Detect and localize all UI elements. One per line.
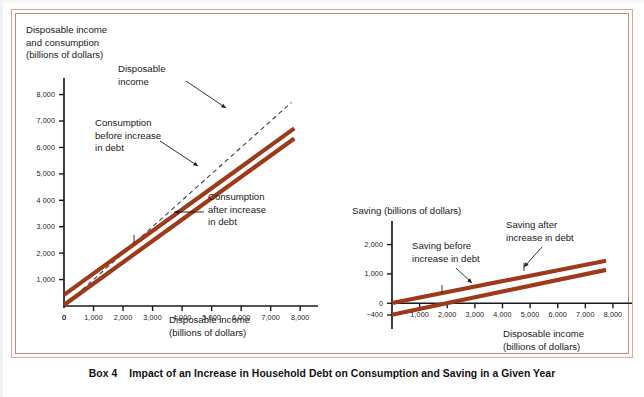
box-number: Box 4 xyxy=(89,368,118,379)
saving-chart: Saving (billions of dollars) Disposable … xyxy=(352,205,637,355)
series-line xyxy=(392,261,606,303)
annotation-consumption-before: Consumption before increase in debt xyxy=(95,117,161,155)
figure-caption: Box 4Impact of an Increase in Household … xyxy=(0,368,644,379)
leader-disposable-income xyxy=(186,81,226,108)
y-tick-label-negative: −400 xyxy=(352,310,383,319)
leader-consumption-before xyxy=(160,141,198,166)
y-tick-label: 0 xyxy=(352,299,383,308)
annotation-disposable-income: Disposable income xyxy=(118,63,165,88)
y-tick-label: 7,000 xyxy=(26,116,55,125)
x-tick-label-zero: 0 xyxy=(47,313,81,322)
right-plot-area xyxy=(352,205,637,355)
consumption-chart: Disposable income and consumption (billi… xyxy=(26,24,326,344)
annotation-saving-before: Saving before increase in debt xyxy=(412,240,480,265)
y-tick-label: 2,000 xyxy=(352,240,383,249)
left-plot-lines xyxy=(26,24,326,344)
page-edge-left xyxy=(0,0,3,397)
x-tick-label: 8,000 xyxy=(283,313,317,322)
figure-page: Disposable income and consumption (billi… xyxy=(0,0,644,397)
y-tick-label: 3,000 xyxy=(26,222,55,231)
annotation-saving-after: Saving after increase in debt xyxy=(506,219,574,244)
series-line xyxy=(392,270,606,315)
y-tick-label: 2,000 xyxy=(26,249,55,258)
leader-saving-before xyxy=(456,268,472,283)
annotation-consumption-after: Consumption after increase in debt xyxy=(208,191,266,229)
y-tick-label: 8,000 xyxy=(26,90,55,99)
y-tick-label: 1,000 xyxy=(352,269,383,278)
y-tick-label: 4 000 xyxy=(26,196,55,205)
right-x-axis-title: Disposable income (billions of dollars) xyxy=(503,328,584,353)
page-edge-top xyxy=(0,0,644,3)
y-tick-label: 5,000 xyxy=(26,169,55,178)
right-plot-lines xyxy=(352,205,637,355)
x-tick-label: 8,000 xyxy=(596,310,630,319)
y-tick-label: 1,000 xyxy=(26,275,55,284)
caption-title: Impact of an Increase in Household Debt … xyxy=(129,368,555,379)
y-tick-label: 6,000 xyxy=(26,143,55,152)
leader-saving-after xyxy=(524,247,542,267)
left-plot-area xyxy=(26,24,326,344)
